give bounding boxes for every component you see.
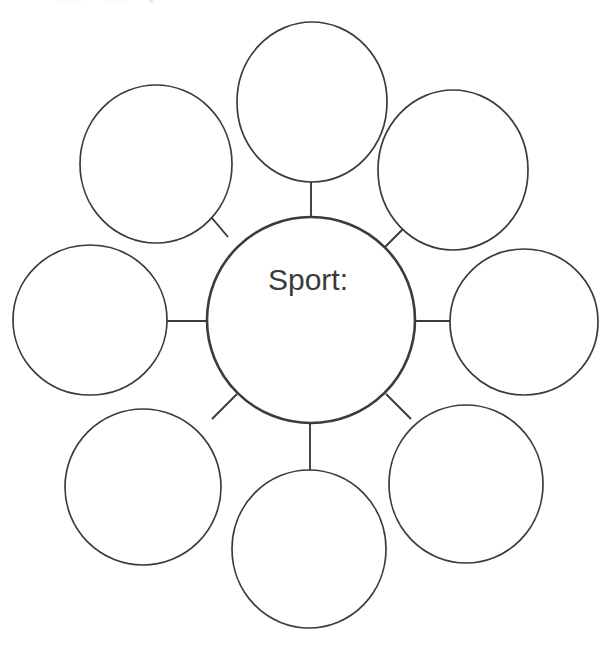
connector-bottom-right	[386, 394, 411, 419]
satellite-bubble-top-right[interactable]	[378, 90, 528, 250]
satellite-bubble-top-left[interactable]	[80, 85, 232, 243]
center-bubble-label: Sport:	[268, 263, 348, 296]
satellite-bubble-right[interactable]	[450, 249, 598, 395]
satellite-bubble-bottom-right[interactable]	[389, 405, 543, 563]
satellite-bubble-left[interactable]	[13, 245, 167, 395]
bubble-map-diagram: Sport:	[0, 0, 614, 652]
satellite-bubble-bottom-left[interactable]	[65, 409, 221, 565]
satellite-bubble-top[interactable]	[237, 22, 387, 182]
worksheet-canvas: Sport:	[0, 0, 614, 652]
connector-bottom-left	[212, 394, 237, 419]
satellite-bubble-bottom[interactable]	[232, 470, 386, 628]
center-bubble[interactable]	[207, 217, 415, 423]
